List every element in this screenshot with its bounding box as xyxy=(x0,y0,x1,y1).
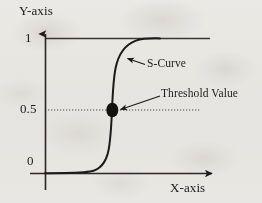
y-axis-title: Y-axis xyxy=(19,4,53,17)
plot-canvas xyxy=(0,0,262,203)
y-tick-label-0.5: 0.5 xyxy=(20,102,37,115)
s-curve-leader-line xyxy=(128,59,146,65)
threshold-leader-line xyxy=(121,96,161,110)
s-curve-figure: Y-axis X-axis 1 0.5 0 S-Curve Threshold … xyxy=(0,0,262,203)
y-tick-label-1: 1 xyxy=(25,31,32,44)
s-curve-annotation-label: S-Curve xyxy=(147,58,186,70)
x-axis-title: X-axis xyxy=(170,181,205,194)
threshold-annotation-label: Threshold Value xyxy=(161,88,238,100)
y-tick-label-0: 0 xyxy=(27,154,34,167)
threshold-point-marker xyxy=(106,103,118,118)
s-curve-path xyxy=(45,38,160,173)
